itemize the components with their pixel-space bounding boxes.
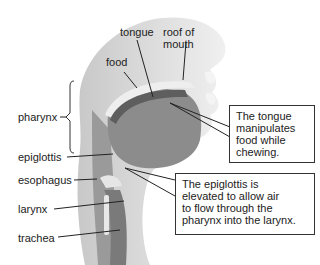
label-trachea: trachea [18, 232, 55, 244]
callout-epiglottis: The epiglottis is elevated to allow air … [175, 173, 315, 235]
label-roof-of-mouth-1: roof of [163, 26, 194, 38]
label-roof-of-mouth-2: mouth [163, 38, 194, 50]
label-esophagus: esophagus [18, 174, 72, 186]
label-epiglottis: epiglottis [18, 151, 61, 163]
label-pharynx: pharynx [18, 111, 57, 123]
label-food: food [106, 56, 127, 68]
pharynx-bracket [66, 81, 74, 153]
label-larynx: larynx [18, 203, 47, 215]
label-tongue: tongue [120, 26, 154, 38]
callout-tongue: The tongue manipulates food while chewin… [229, 105, 315, 163]
